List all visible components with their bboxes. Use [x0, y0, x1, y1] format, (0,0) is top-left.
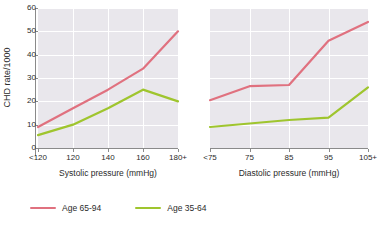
y-tick-label: 20 — [20, 97, 36, 105]
series-lines-systolic — [38, 8, 178, 148]
y-tick-label: 30 — [20, 74, 36, 82]
series-lines-diastolic — [210, 8, 368, 148]
x-tick-label: 95 — [314, 154, 344, 162]
x-axis-title-diastolic: Diastolic pressure (mmHg) — [210, 168, 368, 178]
x-tick-label: 140 — [93, 154, 123, 162]
x-tick-label: 105+ — [353, 154, 382, 162]
series-line — [38, 90, 178, 135]
x-tick-label: 120 — [58, 154, 88, 162]
x-tick-mark — [108, 149, 109, 152]
series-line — [38, 31, 178, 127]
legend-label: Age 65-94 — [62, 203, 101, 213]
x-tick-mark — [73, 149, 74, 152]
x-tick-label: 180+ — [163, 154, 193, 162]
y-tick-label: 40 — [20, 51, 36, 59]
y-axis-title: CHD rate/1000 — [0, 0, 14, 155]
legend-item-age-35-64: Age 35-64 — [135, 203, 206, 213]
x-tick-label: <120 — [23, 154, 53, 162]
panel-systolic: <120120140160180+ Systolic pressure (mmH… — [38, 8, 178, 156]
y-tick-label: 0 — [20, 144, 36, 152]
x-tick-mark — [368, 149, 369, 152]
x-tick-label: 85 — [274, 154, 304, 162]
series-line — [210, 22, 368, 100]
x-tick-mark — [38, 149, 39, 152]
x-axis-title-systolic: Systolic pressure (mmHg) — [38, 168, 178, 178]
series-line — [210, 87, 368, 127]
x-tick-mark — [143, 149, 144, 152]
plot-area-systolic — [38, 8, 178, 148]
chart-legend: Age 65-94 Age 35-64 — [30, 200, 240, 216]
legend-swatch-icon — [135, 207, 161, 210]
y-tick-label: 50 — [20, 27, 36, 35]
legend-item-age-65-94: Age 65-94 — [30, 203, 101, 213]
legend-label: Age 35-64 — [167, 203, 206, 213]
x-tick-mark — [178, 149, 179, 152]
x-tick-mark — [289, 149, 290, 152]
x-tick-label: 160 — [128, 154, 158, 162]
x-tick-label: <75 — [195, 154, 225, 162]
legend-swatch-icon — [30, 207, 56, 210]
plot-area-diastolic — [210, 8, 368, 148]
x-tick-label: 75 — [235, 154, 265, 162]
x-tick-mark — [250, 149, 251, 152]
y-axis: 0102030405060 — [14, 8, 36, 156]
x-tick-mark — [329, 149, 330, 152]
x-tick-mark — [210, 149, 211, 152]
y-tick-label: 10 — [20, 121, 36, 129]
y-tick-label: 60 — [20, 4, 36, 12]
panel-diastolic: <75758595105+ Diastolic pressure (mmHg) — [210, 8, 368, 156]
